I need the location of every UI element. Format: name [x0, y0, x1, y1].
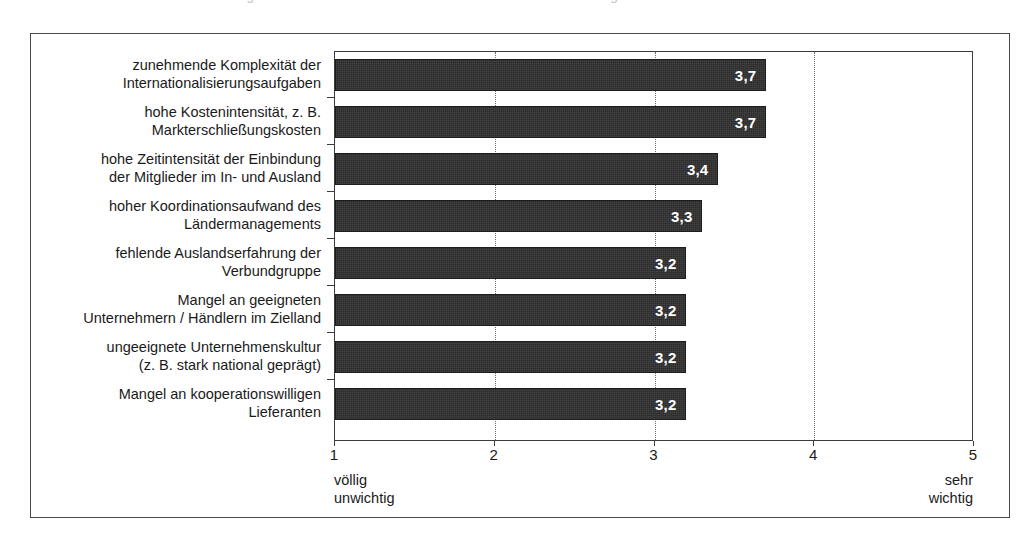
y-axis-tick	[327, 332, 334, 333]
bar: 3,4	[335, 153, 718, 185]
bar: 3,2	[335, 247, 686, 279]
x-axis-tick-label: 4	[809, 446, 817, 464]
bar-value-label: 3,2	[655, 303, 676, 318]
bar-value-label: 3,7	[735, 68, 756, 83]
bar-value-label: 3,2	[655, 350, 676, 365]
y-axis-tick	[327, 144, 334, 145]
bar-row: 3,4	[335, 153, 718, 185]
category-label: ungeeignete Unternehmenskultur (z. B. st…	[32, 338, 332, 374]
bar-value-label: 3,2	[655, 397, 676, 412]
bar-value-label: 3,2	[655, 256, 676, 271]
y-axis-tick	[327, 97, 334, 98]
bar: 3,7	[335, 106, 766, 138]
bar-value-label: 3,3	[671, 209, 692, 224]
gridline-4	[814, 52, 815, 440]
bar-row: 3,2	[335, 247, 686, 279]
x-axis-tick-label: 1	[330, 446, 338, 464]
category-label: hohe Zeitintensität der Einbindung der M…	[32, 150, 332, 186]
y-axis-tick	[327, 379, 334, 380]
scan-artifact-right: Abbildung	[560, 0, 618, 3]
bar: 3,2	[335, 294, 686, 326]
category-label: fehlende Auslandserfahrung der Verbundgr…	[32, 244, 332, 280]
y-axis-tick	[327, 238, 334, 239]
category-label: Mangel an geeigneten Unternehmern / Händ…	[32, 291, 332, 327]
bar: 3,2	[335, 388, 686, 420]
category-label: hoher Koordinationsaufwand des Länderman…	[32, 197, 332, 233]
bar-row: 3,7	[335, 106, 766, 138]
figure-frame: zunehmende Komplexität der International…	[30, 33, 1010, 518]
x-axis-tick-label: 3	[649, 446, 657, 464]
bar-row: 3,2	[335, 388, 686, 420]
category-label: hohe Kostenintensität, z. B. Markterschl…	[32, 103, 332, 139]
scale-anchor-low-label: völlig unwichtig	[334, 471, 394, 507]
bar-row: 3,7	[335, 59, 766, 91]
bar-value-label: 3,7	[735, 115, 756, 130]
bar-row: 3,2	[335, 341, 686, 373]
plot-area: 3,73,73,43,33,23,23,23,2	[334, 51, 973, 441]
scale-anchor-high-label: sehr wichtig	[773, 471, 973, 507]
category-label: Mangel an kooperationswilligen Lieferant…	[32, 385, 332, 421]
x-axis-tick-label: 2	[490, 446, 498, 464]
x-axis-tick-label: 5	[969, 446, 977, 464]
bar-value-label: 3,4	[687, 162, 708, 177]
scan-artifact-left: Abbildung	[196, 0, 254, 3]
bar-row: 3,2	[335, 294, 686, 326]
y-axis-tick	[327, 285, 334, 286]
y-axis-tick	[327, 191, 334, 192]
bar-row: 3,3	[335, 200, 702, 232]
bar: 3,2	[335, 341, 686, 373]
category-label: zunehmende Komplexität der International…	[32, 56, 332, 92]
bar: 3,3	[335, 200, 702, 232]
bar: 3,7	[335, 59, 766, 91]
scan-artifact-strip: Abbildung Abbildung	[0, 0, 1032, 14]
